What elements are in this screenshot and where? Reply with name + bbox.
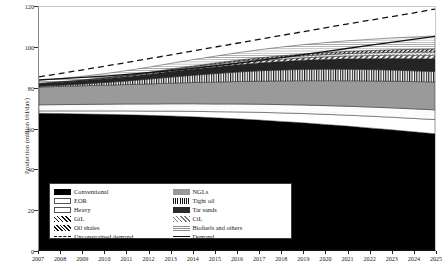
legend-swatch-icon xyxy=(173,225,190,231)
x-tick-mark xyxy=(149,251,150,254)
x-tick-label: 2015 xyxy=(209,256,221,262)
x-tick-label: 2013 xyxy=(165,256,177,262)
x-tick-mark xyxy=(237,251,238,254)
legend-label: GtL xyxy=(74,214,84,223)
x-tick-mark xyxy=(348,251,349,254)
legend-swatch-icon xyxy=(54,198,71,204)
x-tick-mark xyxy=(325,251,326,254)
legend-item-biofuels-and-others[interactable]: Biofuels and others xyxy=(173,223,288,232)
x-tick-mark xyxy=(370,251,371,254)
x-axis: 2007200820092010201120122013201420152016… xyxy=(38,251,436,271)
x-tick-label: 2016 xyxy=(231,256,243,262)
legend-label: Oil shales xyxy=(74,223,99,232)
x-tick-label: 2014 xyxy=(187,256,199,262)
legend-item-heavy[interactable]: Heavy xyxy=(54,205,169,214)
y-tick-label: 120 xyxy=(25,3,34,10)
x-tick-mark xyxy=(126,251,127,254)
chart-legend: ConventionalNGLsEORTight oilHeavyTar san… xyxy=(49,183,292,239)
x-tick-label: 2019 xyxy=(297,256,309,262)
chart-container: Production (million bbl/day) 02040608010… xyxy=(0,0,443,272)
legend-swatch-icon xyxy=(54,225,71,231)
legend-item-oil-shales[interactable]: Oil shales xyxy=(54,223,169,232)
x-tick-label: 2023 xyxy=(386,256,398,262)
x-tick-mark xyxy=(193,251,194,254)
legend-label: Tight oil xyxy=(193,196,215,205)
legend-swatch-icon xyxy=(173,216,190,222)
legend-swatch-icon xyxy=(173,236,190,237)
x-tick-label: 2010 xyxy=(98,256,110,262)
x-tick-mark xyxy=(436,251,437,254)
legend-label: Tar sands xyxy=(193,205,217,214)
legend-item-tar-sands[interactable]: Tar sands xyxy=(173,205,288,214)
legend-swatch-icon xyxy=(54,236,71,237)
x-tick-mark xyxy=(171,251,172,254)
y-axis-ticks: 020406080100120 xyxy=(0,0,38,252)
legend-swatch-icon xyxy=(54,207,71,213)
x-tick-mark xyxy=(60,251,61,254)
x-tick-mark xyxy=(259,251,260,254)
x-tick-mark xyxy=(104,251,105,254)
x-tick-label: 2008 xyxy=(54,256,66,262)
legend-label: Demand xyxy=(193,232,215,241)
x-tick-label: 2025 xyxy=(430,256,442,262)
legend-swatch-icon xyxy=(173,198,190,204)
y-tick-label: 100 xyxy=(25,43,34,50)
legend-swatch-icon xyxy=(54,216,71,222)
x-tick-mark xyxy=(303,251,304,254)
x-tick-label: 2022 xyxy=(364,256,376,262)
x-tick-mark xyxy=(392,251,393,254)
x-tick-mark xyxy=(215,251,216,254)
x-tick-label: 2007 xyxy=(32,256,44,262)
x-tick-label: 2024 xyxy=(408,256,420,262)
legend-label: CtL xyxy=(193,214,203,223)
x-tick-label: 2020 xyxy=(319,256,331,262)
legend-label: Heavy xyxy=(74,205,91,214)
x-tick-mark xyxy=(82,251,83,254)
legend-item-ngls[interactable]: NGLs xyxy=(173,187,288,196)
x-tick-label: 2021 xyxy=(341,256,353,262)
x-tick-label: 2018 xyxy=(275,256,287,262)
x-tick-label: 2012 xyxy=(142,256,154,262)
x-tick-label: 2009 xyxy=(76,256,88,262)
legend-item-unconstrained-demand[interactable]: Unconstrained demand xyxy=(54,232,169,241)
legend-label: EOR xyxy=(74,196,87,205)
legend-item-ctl[interactable]: CtL xyxy=(173,214,288,223)
x-tick-label: 2017 xyxy=(253,256,265,262)
legend-swatch-icon xyxy=(173,207,190,213)
x-tick-mark xyxy=(281,251,282,254)
x-tick-mark xyxy=(414,251,415,254)
legend-swatch-icon xyxy=(173,189,190,195)
x-tick-label: 2011 xyxy=(120,256,132,262)
legend-item-eor[interactable]: EOR xyxy=(54,196,169,205)
legend-item-tight-oil[interactable]: Tight oil xyxy=(173,196,288,205)
x-tick-mark xyxy=(38,251,39,254)
legend-item-demand[interactable]: Demand xyxy=(173,232,288,241)
legend-item-conventional[interactable]: Conventional xyxy=(54,187,169,196)
legend-label: NGLs xyxy=(193,187,209,196)
legend-swatch-icon xyxy=(54,189,71,195)
legend-item-gtl[interactable]: GtL xyxy=(54,214,169,223)
legend-label: Biofuels and others xyxy=(193,223,243,232)
legend-label: Unconstrained demand xyxy=(74,232,133,241)
legend-label: Conventional xyxy=(74,187,108,196)
